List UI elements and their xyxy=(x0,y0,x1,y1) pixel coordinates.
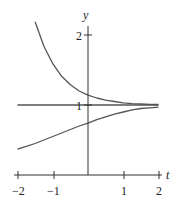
y-tick-label: 2 xyxy=(76,29,82,43)
y-tick-label: 1 xyxy=(76,99,82,113)
t-tick-label: 2 xyxy=(156,184,162,198)
t-tick-label: −2 xyxy=(12,184,25,198)
t-tick-label: −1 xyxy=(47,184,60,198)
t-axis-label: t xyxy=(166,168,170,182)
solution-curve-0 xyxy=(35,22,158,105)
slope-field-solution-plot: −2 −1 1 2 1 2 t y xyxy=(0,0,176,207)
t-tick-label: 1 xyxy=(121,184,127,198)
y-axis-label: y xyxy=(82,8,89,22)
